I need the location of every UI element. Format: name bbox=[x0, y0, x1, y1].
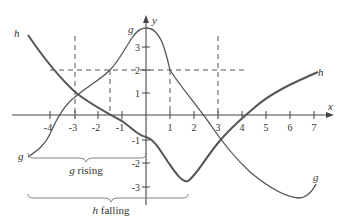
y-tick-label: 2 bbox=[135, 65, 140, 76]
y-tick-labels: 3 2 1 -1 -2 -3 bbox=[132, 42, 140, 193]
x-axis-label: x bbox=[327, 100, 333, 112]
x-tick-label: -1 bbox=[116, 122, 124, 133]
x-tick-label: 7 bbox=[312, 122, 317, 133]
h-falling-brace bbox=[28, 194, 188, 202]
x-tick-label: 5 bbox=[264, 122, 269, 133]
x-axis-arrow-icon bbox=[326, 112, 334, 118]
h-label-right: h bbox=[318, 66, 324, 78]
x-tick-label: 3 bbox=[216, 122, 221, 133]
h-label-top: h bbox=[14, 27, 20, 39]
y-tick-label: -3 bbox=[132, 182, 140, 193]
axes bbox=[12, 20, 330, 205]
graph-figure: -4 -3 -2 -1 1 2 3 4 5 6 7 3 2 1 -1 -2 -3… bbox=[0, 0, 347, 224]
x-tick-label: 1 bbox=[168, 122, 173, 133]
g-rising-brace bbox=[28, 153, 146, 162]
x-tick-labels: -4 -3 -2 -1 1 2 3 4 5 6 7 bbox=[44, 122, 317, 133]
x-tick-label: -3 bbox=[69, 122, 77, 133]
g-label-right: g bbox=[313, 171, 319, 183]
y-tick-label: -2 bbox=[132, 158, 140, 169]
y-tick-label: 1 bbox=[135, 88, 140, 99]
y-tick-label: -1 bbox=[132, 135, 140, 146]
y-axis-arrow-icon bbox=[143, 15, 149, 23]
g-rising-caption: g rising bbox=[69, 164, 103, 176]
y-tick-label: 3 bbox=[135, 42, 140, 53]
h-falling-caption: h falling bbox=[93, 204, 130, 216]
y-axis-label: y bbox=[151, 14, 157, 26]
curve-h bbox=[28, 35, 318, 181]
reference-lines bbox=[50, 36, 248, 118]
x-tick-label: -2 bbox=[92, 122, 100, 133]
g-label-top: g bbox=[128, 23, 134, 35]
x-tick-label: 6 bbox=[288, 122, 293, 133]
x-tick-label: 2 bbox=[192, 122, 197, 133]
g-label-left: g bbox=[18, 150, 24, 162]
x-tick-label: 4 bbox=[240, 122, 245, 133]
